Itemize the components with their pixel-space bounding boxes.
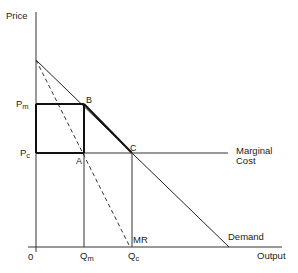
point-c-label: C [130, 143, 137, 153]
point-b-label: B [86, 95, 92, 105]
pc-label: Pc [20, 147, 30, 160]
x-axis-label: Output [257, 250, 286, 261]
marginal-cost-label-line2: Cost [236, 155, 256, 166]
qm-label: Qm [80, 250, 94, 263]
point-a-label: A [76, 156, 82, 166]
pm-label: Pm [16, 98, 29, 111]
y-axis-label: Price [6, 10, 28, 21]
qc-label: Qc [128, 250, 139, 263]
monopoly-diagram: Price Output 0 Pm Pc Qm Qc B A C MR Dema… [0, 0, 298, 273]
mr-label: MR [133, 234, 148, 245]
demand-segment-bc [84, 104, 132, 153]
origin-label: 0 [28, 251, 33, 262]
demand-label: Demand [228, 231, 264, 242]
